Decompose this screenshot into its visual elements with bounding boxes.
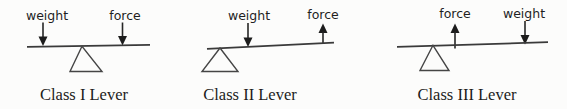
class1-force-down-arrow-icon — [118, 23, 127, 46]
class1-fulcrum-triangle — [70, 46, 102, 71]
class-3-lever-diagram: force weight Class III Lever — [397, 6, 548, 104]
class2-lever-bar — [207, 43, 334, 49]
class3-caption: Class III Lever — [418, 85, 517, 104]
class2-weight-label: weight — [228, 8, 270, 23]
class3-force-label: force — [439, 6, 471, 21]
class3-fulcrum-triangle — [420, 45, 449, 70]
class1-weight-label: weight — [26, 8, 68, 23]
class1-weight-down-arrow-icon — [39, 23, 48, 47]
lever-diagrams-svg: weight force Class I Lever weight force — [0, 0, 567, 109]
class2-weight-down-arrow-icon — [244, 23, 253, 47]
class1-lever-bar — [27, 45, 150, 47]
class2-fulcrum-triangle — [202, 48, 238, 72]
class-1-lever-diagram: weight force Class I Lever — [26, 8, 150, 104]
class-2-lever-diagram: weight force Class II Lever — [202, 7, 339, 104]
class2-caption: Class II Lever — [203, 85, 297, 104]
class3-weight-down-arrow-icon — [521, 21, 530, 45]
lever-classes-figure: weight force Class I Lever weight force — [0, 0, 567, 109]
class1-caption: Class I Lever — [40, 85, 128, 104]
class1-force-label: force — [109, 8, 141, 23]
class2-force-label: force — [307, 7, 339, 22]
class2-force-up-arrow-icon — [319, 24, 328, 44]
class3-weight-label: weight — [503, 6, 545, 21]
class3-lever-bar — [397, 42, 548, 47]
